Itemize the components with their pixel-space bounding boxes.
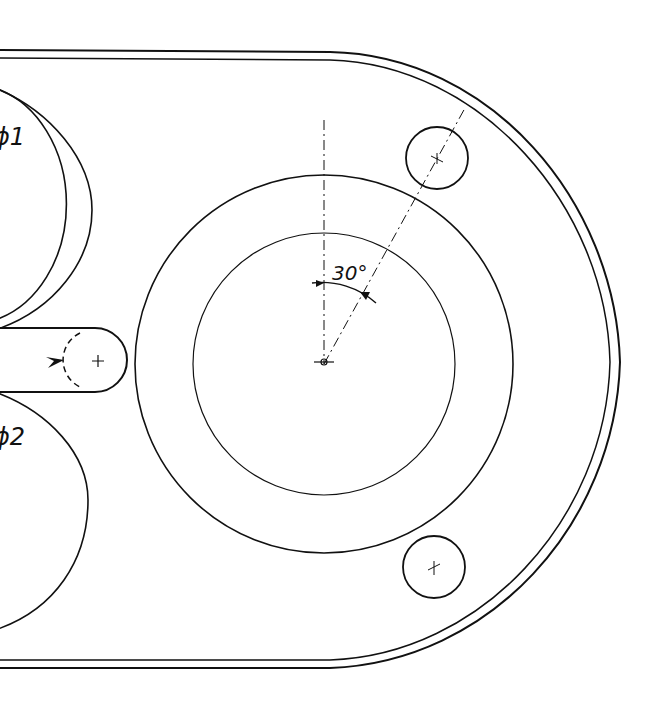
outer-contour xyxy=(0,50,620,668)
label-circle-1: ϕ1 xyxy=(0,123,25,151)
slot-dashed-circle xyxy=(63,333,80,387)
angle-arrow-right-icon xyxy=(360,292,370,300)
technical-drawing: ϕ1 ϕ2 30° xyxy=(0,0,663,721)
label-circle-2: ϕ2 xyxy=(0,423,25,451)
slot-center-mark xyxy=(92,355,104,367)
angle-label: 30° xyxy=(332,261,367,285)
angled-centerline xyxy=(324,108,465,364)
angle-arrow-left-icon xyxy=(316,280,324,287)
slot-arrow-icon xyxy=(46,357,64,368)
hole-top-center-mark xyxy=(431,153,443,164)
hole-bottom-center-mark xyxy=(428,561,440,575)
inner-contour xyxy=(0,58,610,660)
